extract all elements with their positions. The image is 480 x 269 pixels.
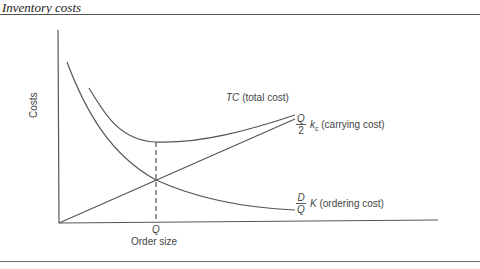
- carrying-label: kc (carrying cost): [310, 119, 385, 132]
- x-axis-label: Order size: [131, 236, 177, 247]
- tc-label: TC (total cost): [226, 92, 289, 103]
- q-tick-label: Q: [152, 224, 160, 235]
- ordering-fraction: D Q: [296, 192, 306, 215]
- x-axis: [59, 220, 438, 223]
- y-axis: [58, 30, 59, 223]
- carrying-fraction: Q 2: [296, 113, 306, 136]
- ordering-cost-curve: [67, 62, 295, 210]
- ordering-label: K (ordering cost): [310, 198, 384, 209]
- y-axis-label: Costs: [28, 92, 39, 118]
- bottom-rule: [0, 261, 480, 262]
- chart-plot: [0, 0, 480, 269]
